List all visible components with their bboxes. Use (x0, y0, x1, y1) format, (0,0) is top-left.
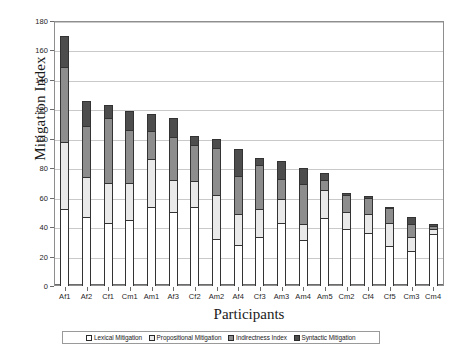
bar-segment (212, 139, 221, 148)
bar-segment (147, 114, 156, 132)
legend-label: Syntactic Mitigation (301, 334, 355, 341)
bar-segment (212, 239, 221, 286)
bar-segment (342, 229, 351, 286)
bar-segment (190, 207, 199, 287)
bar-segment (407, 251, 416, 286)
bar-segment (407, 224, 416, 237)
x-tick-mark (195, 287, 196, 291)
x-tick-mark (260, 287, 261, 291)
legend-label: Propositional Mitigation (157, 334, 222, 341)
bar-segment (255, 158, 264, 165)
bar-segment (82, 101, 91, 126)
legend-item: Indirectness Index (228, 334, 286, 341)
x-tick-mark (412, 287, 413, 291)
legend-item: Lexical Mitigation (86, 334, 142, 341)
bar-segment (364, 214, 373, 233)
bar-am5 (320, 173, 329, 286)
bar-segment (234, 176, 243, 214)
bar-segment (407, 217, 416, 224)
x-tick-mark (282, 287, 283, 291)
bar-segment (169, 212, 178, 286)
bar-segment (190, 181, 199, 206)
x-tick-mark (152, 287, 153, 291)
bar-segment (299, 224, 308, 240)
bar-cm1 (125, 111, 134, 286)
bar-segment (82, 177, 91, 217)
legend-label: Lexical Mitigation (94, 334, 142, 341)
chart-legend: Lexical MitigationPropositional Mitigati… (62, 331, 380, 344)
bar-af2 (82, 101, 91, 286)
bar-segment (147, 159, 156, 206)
bar-segment (125, 220, 134, 286)
y-tick-label: 20 (22, 252, 48, 261)
bar-cf1 (104, 105, 113, 286)
y-tick-label: 160 (22, 46, 48, 55)
bar-segment (147, 207, 156, 287)
x-tick-mark (238, 287, 239, 291)
bar-cm3 (407, 217, 416, 286)
bar-segment (234, 245, 243, 286)
bar-segment (82, 126, 91, 178)
bar-am1 (147, 114, 156, 286)
bar-segment (169, 118, 178, 137)
bar-segment (104, 223, 113, 286)
bar-segment (255, 165, 264, 209)
bar-segment (60, 209, 69, 286)
x-tick-mark (217, 287, 218, 291)
y-tick-label: 0 (22, 282, 48, 291)
bar-cm2 (342, 193, 351, 286)
bar-cm4 (429, 224, 438, 286)
legend-item: Propositional Mitigation (149, 334, 221, 341)
bar-segment (169, 180, 178, 212)
bar-segment (364, 233, 373, 286)
bar-segment (169, 137, 178, 180)
bar-segment (385, 246, 394, 286)
bar-segment (212, 195, 221, 239)
y-tick-label: 100 (22, 134, 48, 143)
bar-segment (320, 173, 329, 180)
bar-segment (320, 180, 329, 190)
bar-af3 (169, 118, 178, 286)
bar-segment (190, 145, 199, 182)
legend-item: Syntactic Mitigation (294, 334, 356, 341)
bar-segment (277, 161, 286, 179)
bar-am3 (277, 161, 286, 286)
bar-segment (320, 218, 329, 286)
y-tick-label: 140 (22, 75, 48, 84)
bar-cf4 (364, 196, 373, 286)
bar-segment (299, 240, 308, 286)
bar-segment (234, 149, 243, 176)
legend-label: Indirectness Index (236, 334, 287, 341)
bar-segment (125, 183, 134, 220)
x-tick-mark (87, 287, 88, 291)
bar-segment (255, 237, 264, 286)
bar-segment (125, 130, 134, 183)
bar-cf3 (255, 158, 264, 286)
bar-segment (299, 184, 308, 224)
x-tick-label: Cm4 (418, 292, 448, 301)
x-tick-mark (65, 287, 66, 291)
mitigation-index-stacked-bar-chart: Mitigation Index 02040608010012014016018… (0, 0, 456, 358)
bar-af4 (234, 149, 243, 286)
bar-am4 (299, 168, 308, 286)
x-tick-mark (173, 287, 174, 291)
bar-segment (82, 217, 91, 286)
y-tick-label: 80 (22, 164, 48, 173)
bar-segment (104, 105, 113, 118)
bar-af1 (60, 36, 69, 286)
bar-am2 (212, 139, 221, 286)
bar-segment (147, 131, 156, 159)
bar-segment (255, 209, 264, 237)
x-tick-mark (390, 287, 391, 291)
x-tick-mark (325, 287, 326, 291)
bar-segment (212, 148, 221, 195)
bar-segment (125, 111, 134, 130)
bar-segment (320, 190, 329, 218)
bar-segment (60, 36, 69, 67)
bar-segment (342, 212, 351, 228)
bar-segment (104, 183, 113, 223)
legend-swatch-icon (294, 335, 300, 341)
bar-cf5 (385, 207, 394, 286)
x-tick-mark (433, 287, 434, 291)
bar-segment (342, 195, 351, 213)
